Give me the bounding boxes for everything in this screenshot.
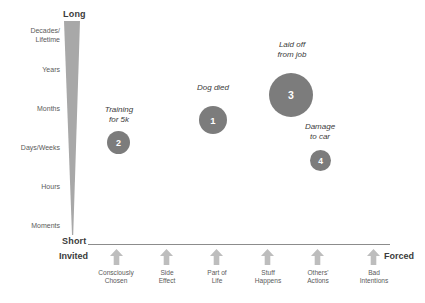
- bubble-chart: Long Decades/ Lifetime Years Months Days…: [0, 0, 425, 303]
- x-axis-arrow-icon-2: [210, 249, 223, 265]
- y-axis-wedge-icon: [64, 21, 80, 235]
- bubble-number-4: 4: [318, 156, 323, 166]
- x-category-label-0: Consciously Chosen: [89, 269, 143, 285]
- x-category-label-5: Bad Intentions: [347, 269, 401, 285]
- bubble-point-1[interactable]: 1: [199, 106, 227, 134]
- x-category-label-4: Others' Actions: [291, 269, 345, 285]
- x-axis-line: [88, 244, 390, 245]
- bubble-label-1: Dog died: [185, 83, 241, 93]
- x-axis-arrow-icon-0: [110, 249, 123, 265]
- x-axis-left-label: Invited: [59, 251, 88, 261]
- bubble-point-3[interactable]: 3: [269, 73, 313, 117]
- y-axis-high-label: Long: [63, 9, 86, 19]
- bubble-label-4: Damage to car: [292, 122, 348, 141]
- x-axis-arrow-icon-5: [367, 249, 380, 265]
- y-tick-4: Hours: [2, 183, 60, 192]
- bubble-number-2: 2: [116, 138, 121, 148]
- y-tick-5: Moments: [2, 222, 60, 231]
- y-tick-0: Decades/ Lifetime: [2, 27, 60, 44]
- y-axis-low-label: Short: [62, 236, 87, 246]
- bubble-label-2: Training for 5k: [91, 105, 147, 124]
- y-axis-tick-labels: Decades/ Lifetime Years Months Days/Week…: [0, 0, 60, 303]
- y-tick-2: Months: [2, 105, 60, 114]
- bubble-number-1: 1: [210, 115, 215, 126]
- bubble-point-2[interactable]: 2: [107, 131, 130, 154]
- x-category-label-2: Part of Life: [190, 269, 244, 285]
- y-tick-1: Years: [2, 66, 60, 75]
- bubble-label-3: Laid off from job: [263, 40, 321, 59]
- x-axis-arrow-icon-4: [311, 249, 324, 265]
- x-axis-arrow-icon-1: [160, 249, 173, 265]
- x-category-label-3: Stuff Happens: [241, 269, 295, 285]
- bubble-point-4[interactable]: 4: [310, 150, 331, 171]
- x-axis-arrow-icon-3: [261, 249, 274, 265]
- bubble-number-3: 3: [288, 89, 294, 101]
- y-tick-3: Days/Weeks: [2, 144, 60, 153]
- x-category-label-1: Side Effect: [140, 269, 194, 285]
- x-axis-right-label: Forced: [384, 251, 414, 261]
